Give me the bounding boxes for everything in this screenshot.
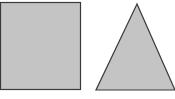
triangle-shape [96,4,175,90]
shapes-diagram [0,0,175,99]
square-shape [1,3,81,90]
